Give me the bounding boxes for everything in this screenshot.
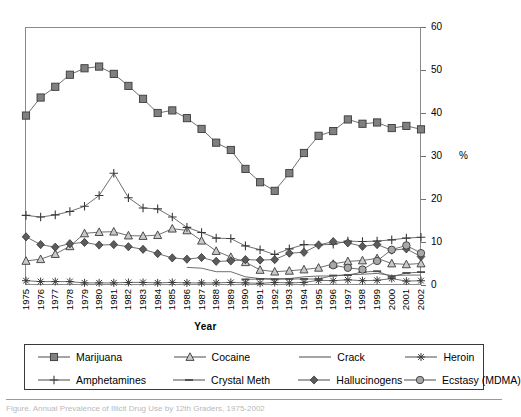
x-tick-label: 1998: [357, 289, 367, 310]
x-axis-title: Year: [0, 321, 411, 332]
legend-item-label: Heroin: [443, 351, 474, 363]
legend-item-label: Marijuana: [76, 351, 122, 363]
legend-item-ecstasy-mdma[interactable]: Ecstasy (MDMA): [403, 374, 483, 386]
x-tick-label: 1997: [343, 289, 353, 310]
legend-item-amphetamines[interactable]: Amphetamines: [37, 374, 172, 386]
legend-item-crystal-meth[interactable]: Crystal Meth: [172, 374, 297, 386]
legend-item-cocaine[interactable]: Cocaine: [173, 351, 299, 363]
y-tick-label: 60: [431, 22, 442, 32]
legend-item-label: Crack: [337, 351, 364, 363]
x-tick-label: 1988: [211, 289, 221, 310]
x-tick-label: 1977: [50, 289, 60, 310]
y-tick-mark: [421, 199, 426, 200]
legend: MarijuanaCocaineCrackHeroinAmphetaminesC…: [24, 344, 484, 390]
y-tick-mark: [421, 242, 426, 243]
x-tick-label: 2002: [416, 289, 426, 310]
x-tick-label: 1976: [36, 289, 46, 310]
legend-item-hallucinogens[interactable]: Hallucinogens: [297, 374, 403, 386]
x-tick-label: 1984: [153, 289, 163, 310]
triangle-marker-icon: [173, 351, 207, 363]
y-tick-label: 50: [431, 65, 442, 75]
x-tick-label: 1982: [123, 289, 133, 310]
legend-item-label: Hallucinogens: [336, 374, 402, 386]
x-tick-label: 1996: [328, 289, 338, 310]
x-tick-label: 1975: [21, 289, 31, 310]
legend-item-label: Crystal Meth: [211, 374, 270, 386]
x-tick-label: 1979: [80, 289, 90, 310]
legend-item-crack[interactable]: Crack: [298, 351, 404, 363]
y-tick-label: 20: [431, 194, 442, 204]
x-tick-label: 1992: [270, 289, 280, 310]
x-tick-label: 1991: [255, 289, 265, 310]
x-tick-label: 1987: [197, 289, 207, 310]
y-tick-mark: [421, 156, 426, 157]
line-marker-icon: [298, 351, 332, 363]
y-tick-mark: [421, 70, 426, 71]
legend-row: MarijuanaCocaineCrackHeroin: [25, 345, 483, 368]
legend-item-heroin[interactable]: Heroin: [404, 351, 483, 363]
diamond-marker-icon: [297, 374, 331, 386]
x-tick-label: 2000: [387, 289, 397, 310]
caption-divider: [6, 399, 502, 400]
y-tick-label: 10: [431, 237, 442, 247]
legend-item-marijuana[interactable]: Marijuana: [37, 351, 173, 363]
plot-area: [25, 27, 421, 285]
y-tick-label: 30: [431, 151, 442, 161]
circle-marker-icon: [403, 374, 437, 386]
y-tick-mark: [421, 113, 426, 114]
x-tick-label: 2001: [401, 289, 411, 310]
legend-item-label: Amphetamines: [76, 374, 146, 386]
y-tick-mark: [421, 27, 426, 28]
plus-marker-icon: [37, 374, 71, 386]
square-marker-icon: [37, 351, 71, 363]
x-tick-label: 1993: [284, 289, 294, 310]
x-tick-label: 1995: [314, 289, 324, 310]
asterisk-marker-icon: [404, 351, 438, 363]
legend-row: AmphetaminesCrystal MethHallucinogensEcs…: [25, 368, 483, 391]
x-tick-label: 1978: [65, 289, 75, 310]
dash-marker-icon: [172, 374, 206, 386]
x-tick-label: 1989: [226, 289, 236, 310]
x-tick-label: 1986: [182, 289, 192, 310]
y-tick-label: 0: [431, 280, 437, 290]
y-tick-mark: [421, 285, 426, 286]
y-axis-title: %: [459, 150, 468, 161]
x-tick-label: 1999: [372, 289, 382, 310]
x-tick-label: 1985: [167, 289, 177, 310]
figure-caption: Figure. Annual Prevalence of Illicit Dru…: [6, 404, 502, 414]
legend-item-label: Cocaine: [212, 351, 251, 363]
legend-item-label: Ecstasy (MDMA): [442, 374, 521, 386]
x-tick-label: 1990: [240, 289, 250, 310]
x-tick-label: 1994: [299, 289, 309, 310]
x-tick-label: 1983: [138, 289, 148, 310]
x-tick-label: 1980: [94, 289, 104, 310]
y-tick-label: 40: [431, 108, 442, 118]
x-tick-label: 1981: [109, 289, 119, 310]
